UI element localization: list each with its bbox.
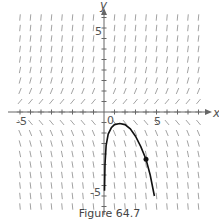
slope-segment	[19, 77, 21, 83]
slope-segment	[20, 193, 21, 199]
slope-segment	[154, 99, 158, 104]
slope-segment	[39, 120, 43, 125]
x-tick-label-5: 5	[154, 115, 161, 128]
slope-segment	[198, 46, 199, 52]
slope-segment	[29, 88, 31, 94]
slope-segment	[186, 120, 190, 125]
slope-segment	[49, 99, 53, 104]
slope-segment	[176, 130, 178, 136]
slope-segment	[135, 67, 136, 73]
slope-segment	[114, 46, 115, 52]
slope-segment	[167, 35, 168, 41]
slope-segment	[188, 35, 189, 41]
slope-segment	[176, 88, 178, 94]
slope-segment	[166, 77, 168, 83]
slope-segment	[72, 56, 73, 62]
slope-segment	[135, 193, 136, 199]
slope-segment	[165, 99, 169, 104]
slope-segment	[72, 35, 73, 41]
slope-segment	[177, 77, 179, 83]
slope-segment	[51, 67, 52, 73]
slope-segment	[51, 77, 53, 83]
slope-segment	[30, 193, 31, 199]
slope-segment	[51, 56, 52, 62]
slope-segment	[114, 77, 116, 83]
slope-segment	[114, 14, 115, 20]
slope-segment	[155, 88, 157, 94]
slope-segment	[19, 56, 20, 62]
slope-segment	[145, 88, 147, 94]
slope-segment	[114, 140, 116, 146]
slope-segment	[40, 151, 41, 157]
y-tick-label-neg5: -5	[90, 186, 101, 199]
slope-segment	[187, 140, 189, 146]
slope-segment	[72, 172, 73, 178]
slope-segment	[92, 130, 94, 136]
slope-segment	[93, 140, 95, 146]
slope-segment	[20, 14, 21, 20]
slope-segment	[83, 35, 84, 41]
slope-segment	[30, 35, 31, 41]
slope-segment	[177, 25, 178, 31]
slope-segment	[40, 67, 41, 73]
slope-segment	[125, 46, 126, 52]
slope-segment	[124, 88, 126, 94]
y-tick-label-5: 5	[95, 25, 102, 38]
x-axis-label: x	[212, 106, 219, 120]
slope-segment	[93, 56, 94, 62]
slope-segment	[29, 130, 31, 136]
slope-segment	[83, 172, 84, 178]
slope-segment	[177, 140, 179, 146]
slope-segment	[82, 88, 84, 94]
slope-segment	[61, 56, 62, 62]
slope-segment	[51, 193, 52, 199]
slope-segment	[198, 14, 199, 20]
slope-segment	[145, 56, 146, 62]
slope-segment	[60, 120, 64, 125]
slope-segment	[28, 120, 32, 125]
slope-segment	[72, 161, 73, 167]
slope-segment	[93, 46, 94, 52]
slope-segment	[156, 151, 157, 157]
slope-segment	[135, 140, 137, 146]
slope-segment	[135, 35, 136, 41]
slope-segment	[156, 193, 157, 199]
slope-segment	[145, 140, 147, 146]
slope-segment	[146, 172, 147, 178]
slope-segment	[114, 25, 115, 31]
slope-segment	[125, 25, 126, 31]
slope-segment	[51, 161, 52, 167]
slope-segment	[156, 172, 157, 178]
slope-segment	[198, 182, 199, 188]
slope-segment	[187, 56, 188, 62]
slope-segment	[51, 172, 52, 178]
slope-segment	[19, 67, 20, 73]
slope-segment	[30, 172, 31, 178]
slope-segment	[133, 120, 137, 125]
slope-segment	[82, 67, 83, 73]
slope-segment	[92, 88, 94, 94]
slope-segment	[91, 120, 95, 125]
slope-segment	[93, 35, 94, 41]
slope-segment	[198, 193, 199, 199]
slope-segment	[188, 182, 189, 188]
slope-segment	[20, 182, 21, 188]
slope-segment	[72, 182, 73, 188]
slope-segment	[166, 161, 167, 167]
slope-segment	[114, 193, 115, 199]
slope-segment	[61, 67, 62, 73]
slope-segment	[40, 56, 41, 62]
slope-segment	[175, 120, 179, 125]
slope-segment	[177, 193, 178, 199]
slope-segment	[113, 88, 115, 94]
slope-segment	[156, 140, 158, 146]
slope-segment	[134, 88, 136, 94]
slope-segment	[165, 120, 169, 125]
slope-segment	[198, 151, 199, 157]
slope-segment	[81, 99, 85, 104]
slope-segment	[51, 46, 52, 52]
slope-segment	[166, 67, 167, 73]
slope-segment	[72, 77, 74, 83]
slope-segment	[188, 193, 189, 199]
slope-segment	[146, 182, 147, 188]
